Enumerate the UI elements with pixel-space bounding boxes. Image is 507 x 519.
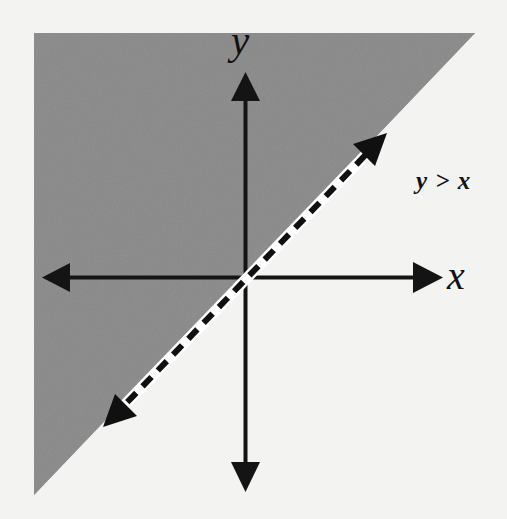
y-axis-label: y <box>231 20 249 61</box>
coordinate-plane-svg <box>0 0 507 519</box>
inequality-graph-figure: y x y > x <box>0 0 507 519</box>
inequality-label: y > x <box>416 168 471 193</box>
x-axis-label: x <box>447 256 465 296</box>
